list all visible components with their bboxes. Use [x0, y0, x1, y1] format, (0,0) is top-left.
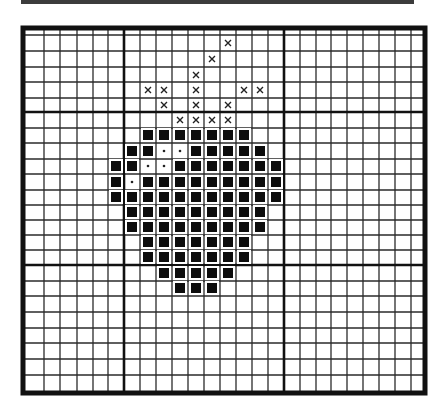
filled-cell	[191, 177, 201, 187]
filled-cell	[191, 237, 201, 247]
filled-cell	[239, 207, 249, 217]
x-mark-icon	[209, 56, 215, 62]
filled-cell	[207, 146, 217, 156]
filled-cell	[191, 268, 201, 278]
filled-cell	[239, 252, 249, 262]
filled-cell	[271, 177, 281, 187]
filled-cell	[207, 192, 217, 202]
pixel-grid-chart	[0, 0, 442, 404]
x-mark-icon	[209, 117, 215, 123]
filled-cell	[191, 252, 201, 262]
filled-cell	[207, 222, 217, 232]
dot-mark	[147, 165, 150, 168]
filled-cell	[143, 237, 153, 247]
filled-cell	[159, 268, 169, 278]
filled-cell	[239, 146, 249, 156]
filled-cell	[143, 192, 153, 202]
filled-cell	[175, 161, 185, 171]
x-mark-icon	[225, 117, 231, 123]
filled-cell	[239, 177, 249, 187]
filled-cell	[223, 237, 233, 247]
filled-cell	[159, 207, 169, 217]
filled-cell	[271, 192, 281, 202]
filled-cell	[191, 161, 201, 171]
x-mark-icon	[225, 40, 231, 46]
filled-cell	[255, 177, 265, 187]
dot-mark	[163, 165, 166, 168]
filled-cell	[255, 192, 265, 202]
filled-cell	[175, 177, 185, 187]
filled-cell	[207, 237, 217, 247]
filled-cell	[239, 130, 249, 140]
filled-cell	[207, 161, 217, 171]
filled-cell	[191, 222, 201, 232]
x-mark-icon	[161, 102, 167, 108]
filled-cell	[143, 207, 153, 217]
filled-cell	[143, 177, 153, 187]
filled-cell	[223, 192, 233, 202]
filled-cell	[175, 268, 185, 278]
filled-cell	[127, 146, 137, 156]
filled-cell	[111, 192, 121, 202]
filled-cell	[127, 161, 137, 171]
filled-cell	[207, 207, 217, 217]
filled-cell	[175, 222, 185, 232]
x-mark-icon	[241, 87, 247, 93]
x-mark-icon	[225, 102, 231, 108]
x-mark-icon	[177, 117, 183, 123]
filled-cell	[127, 207, 137, 217]
x-mark-icon	[145, 87, 151, 93]
x-mark-icon	[193, 72, 199, 78]
filled-cell	[223, 207, 233, 217]
dot-mark	[163, 150, 166, 153]
filled-cell	[159, 222, 169, 232]
filled-squares-group	[109, 128, 283, 295]
filled-cell	[159, 130, 169, 140]
filled-cell	[223, 252, 233, 262]
filled-cell	[143, 222, 153, 232]
filled-cell	[175, 192, 185, 202]
dot-mark	[131, 181, 134, 184]
filled-cell	[111, 177, 121, 187]
filled-cell	[223, 177, 233, 187]
filled-cell	[143, 146, 153, 156]
filled-cell	[239, 192, 249, 202]
filled-cell	[159, 192, 169, 202]
filled-cell	[223, 130, 233, 140]
filled-cell	[127, 192, 137, 202]
filled-cell	[175, 252, 185, 262]
filled-cell	[239, 161, 249, 171]
filled-cell	[143, 130, 153, 140]
filled-cell	[255, 222, 265, 232]
filled-cell	[207, 252, 217, 262]
filled-cell	[191, 146, 201, 156]
filled-cell	[159, 177, 169, 187]
filled-cell	[255, 146, 265, 156]
filled-cell	[239, 237, 249, 247]
x-mark-icon	[193, 102, 199, 108]
filled-cell	[175, 130, 185, 140]
filled-cell	[271, 161, 281, 171]
filled-cell	[255, 161, 265, 171]
filled-cell	[175, 207, 185, 217]
filled-cell	[191, 192, 201, 202]
filled-cell	[223, 161, 233, 171]
x-mark-icon	[161, 87, 167, 93]
filled-cell	[159, 237, 169, 247]
filled-cell	[191, 283, 201, 293]
filled-cell	[191, 130, 201, 140]
filled-cell	[175, 283, 185, 293]
filled-cell	[111, 161, 121, 171]
filled-cell	[207, 177, 217, 187]
x-mark-icon	[257, 87, 263, 93]
filled-cell	[207, 268, 217, 278]
filled-cell	[255, 207, 265, 217]
filled-cell	[159, 252, 169, 262]
filled-cell	[127, 222, 137, 232]
filled-cell	[143, 252, 153, 262]
filled-cell	[223, 146, 233, 156]
dot-mark	[179, 150, 182, 153]
filled-cell	[191, 207, 201, 217]
x-mark-icon	[193, 87, 199, 93]
filled-cell	[223, 222, 233, 232]
